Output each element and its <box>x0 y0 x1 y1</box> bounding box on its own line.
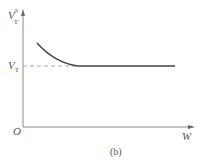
vt-level-label: VT <box>8 60 19 74</box>
x-axis-arrow-icon <box>188 125 195 129</box>
va-curve <box>37 43 175 66</box>
x-axis-label: W <box>182 131 191 142</box>
diagram-canvas <box>0 0 202 167</box>
figure-caption: (b) <box>110 147 122 157</box>
y-axis-label: VaT <box>8 9 22 24</box>
origin-label: O <box>13 126 21 137</box>
